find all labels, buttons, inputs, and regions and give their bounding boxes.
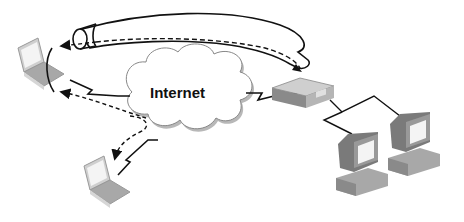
- network-diagram: Internet: [0, 0, 464, 222]
- dashed-arrow: [115, 116, 147, 158]
- wireless-link: [118, 140, 158, 175]
- router-icon: [272, 78, 334, 108]
- network-cable: [324, 112, 352, 134]
- cloud-label: Internet: [150, 84, 205, 101]
- internet-cloud: Internet: [126, 44, 254, 132]
- desktop-computer-icon: [388, 112, 440, 176]
- laptop-icon: [84, 156, 130, 208]
- desktop-computer-icon: [336, 132, 388, 196]
- laptop-icon: [18, 38, 64, 90]
- wireless-link: [70, 80, 130, 96]
